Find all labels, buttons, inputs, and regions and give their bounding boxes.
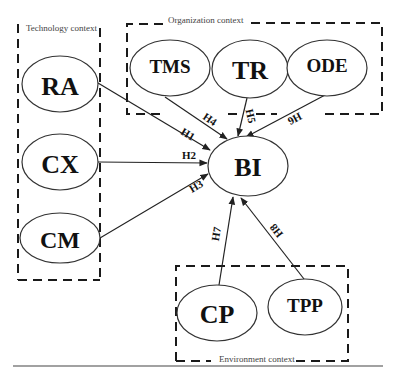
node-tms-label: TMS: [149, 56, 190, 77]
node-cp: CP: [177, 285, 257, 341]
edge-cp-bi: [219, 197, 233, 285]
edge-label-h7: H7: [209, 226, 223, 242]
edge-label-h5: H5: [244, 108, 259, 125]
node-tpp: TPP: [268, 279, 342, 335]
tech-adoption-diagram: Technology context Organization context …: [0, 0, 400, 384]
node-tr-label: TR: [232, 56, 268, 85]
edge-label-h6: H6: [286, 110, 304, 127]
node-ra-label: RA: [41, 72, 79, 101]
node-bi-label: BI: [234, 153, 261, 182]
node-cp-label: CP: [200, 300, 235, 329]
organization-context-label: Organization context: [168, 15, 244, 25]
node-ra: RA: [22, 56, 98, 112]
node-ode: ODE: [287, 40, 367, 96]
node-tpp-label: TPP: [287, 295, 323, 316]
edge-label-h8: H8: [267, 221, 285, 240]
node-tms: TMS: [130, 40, 210, 96]
environment-context-label: Environment context: [219, 354, 295, 364]
node-tr: TR: [212, 40, 288, 98]
technology-context-label: Technology context: [26, 23, 98, 33]
node-cx: CX: [22, 134, 98, 190]
edge-label-h3: H3: [187, 177, 206, 195]
edge-label-h2: H2: [182, 149, 197, 161]
node-bi: BI: [208, 136, 288, 196]
node-cm-label: CM: [40, 227, 80, 253]
edge-cx-bi: [98, 162, 207, 163]
node-ode-label: ODE: [306, 55, 347, 76]
node-cm: CM: [20, 213, 100, 263]
node-cx-label: CX: [41, 150, 79, 179]
edge-ode-bi: [246, 94, 327, 137]
edge-label-h4: H4: [201, 110, 220, 128]
